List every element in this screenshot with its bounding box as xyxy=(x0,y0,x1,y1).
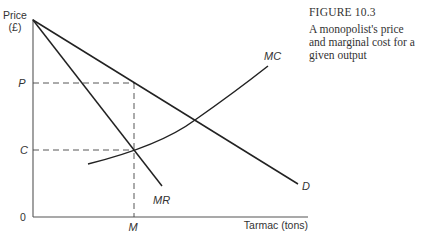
mc-label: MC xyxy=(264,50,281,62)
demand-curve xyxy=(33,20,298,184)
y-axis-label-line2: (£) xyxy=(9,21,22,33)
figure-description: A monopolist's price and marginal cost f… xyxy=(309,23,421,62)
origin-label: 0 xyxy=(20,211,26,223)
y-axis-label-line1: Price xyxy=(3,9,27,21)
price-tick-label: P xyxy=(18,77,26,89)
x-axis-label: Tarmac (tons) xyxy=(244,219,308,231)
figure-caption: FIGURE 10.3 A monopolist's price and mar… xyxy=(309,5,421,62)
cost-tick-label: C xyxy=(20,144,28,156)
figure-number: FIGURE 10.3 xyxy=(309,5,421,19)
output-tick-label: M xyxy=(128,221,138,233)
demand-label: D xyxy=(302,180,310,192)
mr-label: MR xyxy=(153,194,170,206)
